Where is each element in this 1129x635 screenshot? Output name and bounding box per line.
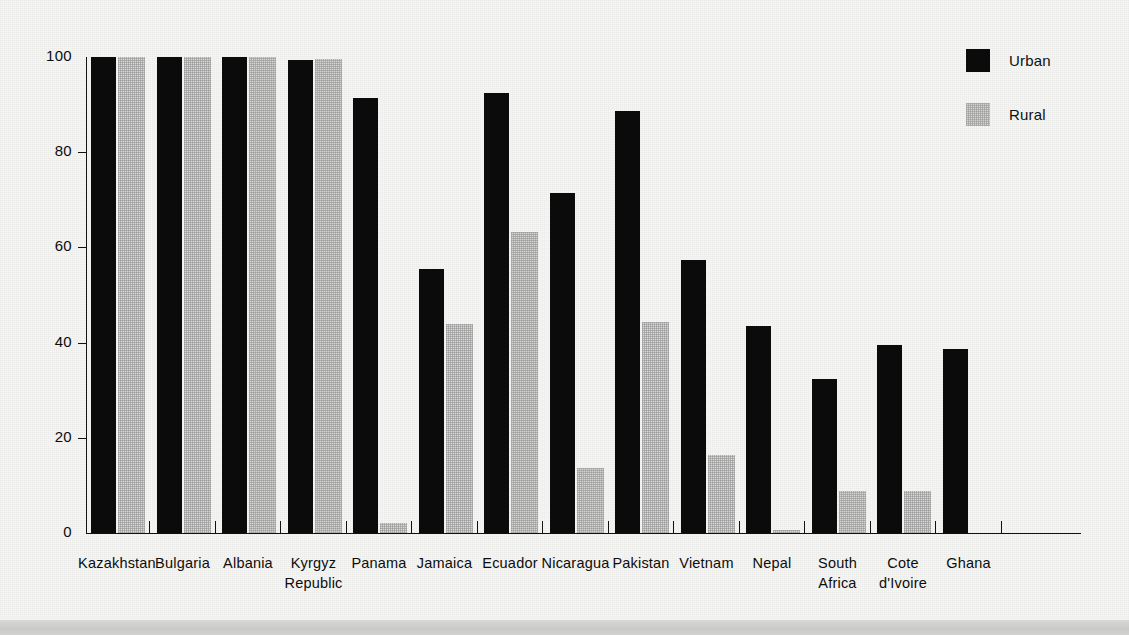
bar-rural[interactable] [839, 491, 866, 533]
bar-rural[interactable] [184, 57, 211, 533]
bar-group [288, 57, 340, 533]
bar-group [877, 57, 929, 533]
bar-group [812, 57, 864, 533]
bar-rural[interactable] [773, 530, 800, 533]
legend-label-rural: Rural [1009, 106, 1046, 123]
bar-group [222, 57, 274, 533]
y-axis-label: 40 [18, 333, 72, 350]
bar-rural[interactable] [249, 57, 276, 533]
bar-urban[interactable] [419, 269, 444, 533]
y-axis-tick [78, 343, 87, 344]
bar-group [681, 57, 733, 533]
bar-group [484, 57, 536, 533]
x-axis-tick [542, 521, 543, 533]
x-axis-tick [1001, 521, 1002, 533]
legend-swatch-urban [966, 49, 990, 72]
y-axis-tick [78, 438, 87, 439]
bar-rural[interactable] [446, 324, 473, 533]
y-axis-label: 80 [18, 142, 72, 159]
bar-rural[interactable] [642, 322, 669, 533]
x-axis-tick [346, 521, 347, 533]
bar-urban[interactable] [746, 326, 771, 533]
bar-urban[interactable] [91, 57, 116, 533]
legend-swatch-rural [966, 103, 990, 126]
x-axis-tick [935, 521, 936, 533]
y-axis-label: 0 [18, 523, 72, 540]
bar-rural[interactable] [708, 455, 735, 533]
x-axis-tick [215, 521, 216, 533]
x-axis-tick [149, 521, 150, 533]
bar-rural[interactable] [511, 232, 538, 533]
y-axis-label: 60 [18, 237, 72, 254]
legend: Urban Rural [966, 44, 1051, 130]
x-axis-label: Ghana [929, 553, 1009, 573]
bar-urban[interactable] [484, 93, 509, 533]
bar-group [419, 57, 471, 533]
bar-group [91, 57, 143, 533]
legend-item-urban[interactable]: Urban [966, 44, 1051, 76]
bar-urban[interactable] [353, 98, 378, 533]
x-axis-tick [411, 521, 412, 533]
bar-rural[interactable] [380, 523, 407, 533]
bar-urban[interactable] [681, 260, 706, 533]
bar-group [550, 57, 602, 533]
x-axis-tick [477, 521, 478, 533]
bar-urban[interactable] [943, 349, 968, 533]
bar-rural[interactable] [315, 59, 342, 533]
x-axis-tick [870, 521, 871, 533]
x-axis-tick [673, 521, 674, 533]
x-axis-tick [280, 521, 281, 533]
y-axis-line [86, 57, 87, 534]
legend-label-urban: Urban [1009, 52, 1051, 69]
bar-urban[interactable] [550, 193, 575, 533]
x-axis-tick [804, 521, 805, 533]
bar-group [746, 57, 798, 533]
bar-urban[interactable] [877, 345, 902, 533]
bar-rural[interactable] [577, 468, 604, 533]
bar-chart: 020406080100 KazakhstanBulgariaAlbaniaKy… [0, 0, 1129, 620]
bar-urban[interactable] [812, 379, 837, 533]
bar-urban[interactable] [615, 111, 640, 533]
bar-group [157, 57, 209, 533]
y-axis-tick [78, 152, 87, 153]
bar-rural[interactable] [118, 57, 145, 533]
bar-group [353, 57, 405, 533]
legend-item-rural[interactable]: Rural [966, 98, 1051, 130]
bottom-edge-strip [0, 620, 1129, 635]
x-axis-tick [608, 521, 609, 533]
bar-rural[interactable] [904, 491, 931, 533]
y-axis-tick [78, 247, 87, 248]
x-axis-tick-origin [86, 521, 87, 533]
bar-group [615, 57, 667, 533]
bar-urban[interactable] [222, 57, 247, 533]
y-axis-label: 100 [18, 47, 72, 64]
x-axis-tick [739, 521, 740, 533]
bar-urban[interactable] [157, 57, 182, 533]
y-axis-label: 20 [18, 428, 72, 445]
x-axis-line [86, 533, 1081, 534]
bar-urban[interactable] [288, 60, 313, 533]
